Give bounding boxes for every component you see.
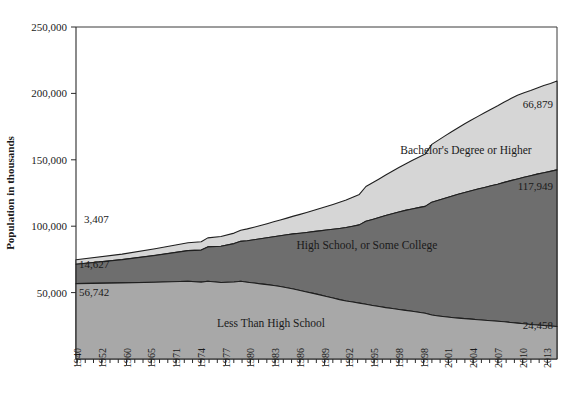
x-tick-label: 1995	[369, 348, 380, 368]
x-tick-label: 1980	[245, 348, 256, 368]
x-tick-label: 1960	[122, 348, 133, 368]
x-tick-label: 2007	[493, 348, 504, 368]
value-label-right-bachelors: 66,879	[523, 98, 554, 110]
series-label-high-school-or-some-college: High School, or Some College	[297, 239, 438, 252]
x-tick-label: 1998	[419, 348, 430, 368]
stacked-area-chart: 50,000100,000150,000200,000250,000 19401…	[0, 0, 580, 398]
value-label-left-bachelors: 3,407	[84, 213, 109, 225]
value-label-right-high-school: 117,949	[518, 180, 554, 192]
x-tick-label: 1986	[295, 348, 306, 368]
x-tick-label: 1971	[171, 348, 182, 368]
x-tick-label: 2004	[468, 348, 479, 368]
series-label-less-than-high-school: Less Than High School	[217, 317, 325, 330]
y-tick-label: 250,000	[31, 21, 67, 33]
value-label-left-high-school: 14,627	[79, 258, 110, 270]
x-tick-label: 2013	[542, 348, 553, 368]
x-tick-label: 1940	[72, 348, 83, 368]
x-tick-label: 1952	[97, 348, 108, 368]
series-label-bachelors-degree-or-higher: Bachelor's Degree or Higher	[400, 144, 532, 157]
x-tick-label: 1998	[394, 348, 405, 368]
y-axis-title: Population in thousands	[4, 135, 16, 249]
x-tick-label: 1977	[221, 348, 232, 368]
x-tick-label: 1983	[270, 348, 281, 368]
y-tick-label: 200,000	[31, 87, 67, 99]
y-axis-ticks: 50,000100,000150,000200,000250,000	[31, 21, 76, 299]
chart-canvas: 50,000100,000150,000200,000250,000 19401…	[0, 0, 580, 398]
x-tick-label: 1989	[320, 348, 331, 368]
value-label-left-less-than-high-school: 56,742	[79, 286, 109, 298]
x-tick-label: 2010	[518, 348, 529, 368]
y-tick-label: 50,000	[37, 287, 68, 299]
x-tick-label: 1965	[146, 348, 157, 368]
y-tick-label: 150,000	[31, 154, 67, 166]
y-tick-label: 100,000	[31, 220, 67, 232]
x-tick-label: 1992	[344, 348, 355, 368]
value-label-right-less-than-high-school: 24,458	[523, 319, 554, 331]
x-tick-label: 2001	[443, 348, 454, 368]
x-tick-label: 1974	[196, 348, 207, 368]
